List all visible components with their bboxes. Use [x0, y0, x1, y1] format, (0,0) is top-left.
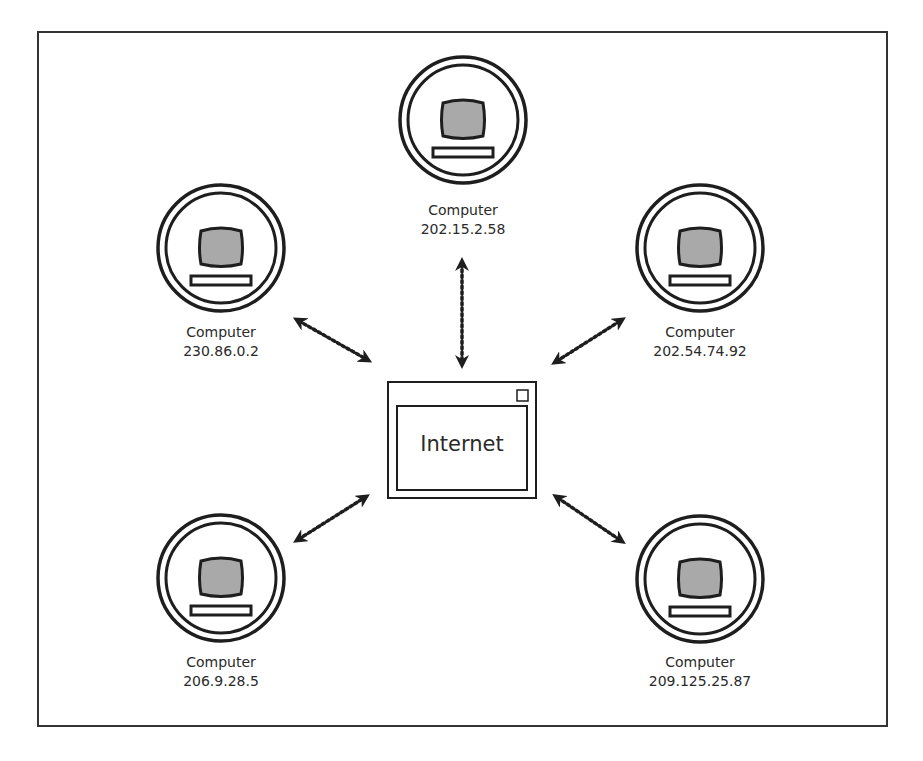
node-type: Computer [363, 201, 563, 220]
computer-icon [158, 185, 284, 311]
node-label-upper-left: Computer 230.86.0.2 [121, 323, 321, 361]
node-ip: 230.86.0.2 [121, 342, 321, 361]
node-type: Computer [600, 653, 800, 672]
node-label-lower-left: Computer 206.9.28.5 [121, 653, 321, 691]
diagram-canvas [0, 0, 923, 761]
internet-label: Internet [388, 432, 536, 456]
node-type: Computer [121, 323, 321, 342]
computer-icon [158, 515, 284, 641]
node-ip: 202.54.74.92 [600, 342, 800, 361]
node-label-lower-right: Computer 209.125.25.87 [600, 653, 800, 691]
connection-arrow [558, 498, 620, 540]
node-label-top: Computer 202.15.2.58 [363, 201, 563, 239]
node-ip: 209.125.25.87 [600, 672, 800, 691]
computer-icon [400, 57, 526, 183]
node-ip: 206.9.28.5 [121, 672, 321, 691]
computer-icon [637, 516, 763, 642]
node-label-upper-right: Computer 202.54.74.92 [600, 323, 800, 361]
network-diagram: Internet Computer 202.15.2.58 Computer 2… [0, 0, 923, 761]
connection-arrow [299, 498, 364, 539]
node-type: Computer [121, 653, 321, 672]
computer-icon [637, 185, 763, 311]
node-type: Computer [600, 323, 800, 342]
node-ip: 202.15.2.58 [363, 220, 563, 239]
